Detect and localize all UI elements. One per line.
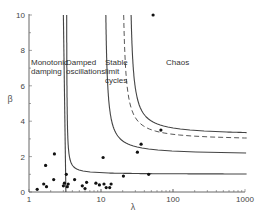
y-axis-label: β	[7, 94, 12, 104]
x-tick-label: 1	[27, 195, 32, 204]
region-label-stable-limit-cycles: Stable limit cycles	[105, 58, 128, 85]
tick-labels: 11010010000246810	[16, 11, 254, 204]
data-point	[147, 173, 150, 176]
data-point	[108, 186, 111, 189]
data-point	[65, 173, 68, 176]
monotonic-damping-boundary	[63, 15, 66, 192]
chaos-boundary	[131, 15, 247, 133]
x-tick-label: 100	[166, 195, 180, 204]
data-point	[122, 175, 125, 178]
data-point	[102, 182, 105, 185]
y-tick-label: 2	[21, 153, 26, 162]
data-points	[36, 13, 163, 191]
y-tick-label: 6	[21, 82, 26, 91]
y-tick-label: 10	[16, 11, 25, 20]
data-point	[63, 182, 66, 185]
y-tick-label: 8	[21, 46, 26, 55]
axes	[29, 14, 245, 192]
data-point	[53, 152, 56, 155]
x-axis-label: λ	[131, 202, 136, 212]
data-point	[42, 182, 45, 185]
x-tick-label: 1000	[236, 195, 254, 204]
phase-diagram: 11010010000246810 λ β	[0, 0, 263, 214]
data-point	[52, 178, 55, 181]
data-point	[85, 181, 88, 184]
data-point	[83, 187, 86, 190]
data-point	[36, 188, 39, 191]
data-point	[152, 13, 155, 16]
data-point	[94, 182, 97, 185]
data-point	[45, 185, 48, 188]
data-point	[140, 143, 143, 146]
data-point	[105, 186, 108, 189]
data-point	[110, 182, 113, 185]
y-tick-label: 0	[21, 188, 26, 197]
data-point	[44, 164, 47, 167]
x-tick-label: 10	[97, 195, 106, 204]
data-point	[67, 182, 70, 185]
data-point	[159, 129, 162, 132]
region-label-damped-oscillations: Damped oscillations	[66, 58, 105, 76]
boundary-curves	[63, 15, 246, 192]
data-point	[136, 151, 139, 154]
data-point	[81, 184, 84, 187]
y-tick-label: 4	[21, 117, 26, 126]
region-label-monotonic-damping: Monotonic damping	[31, 58, 68, 76]
chaos-boundary-dashed	[124, 15, 247, 138]
axis-ticks	[29, 15, 245, 192]
data-point	[98, 183, 101, 186]
data-point	[73, 178, 76, 181]
data-point	[102, 156, 105, 159]
region-label-chaos: Chaos	[166, 58, 189, 67]
